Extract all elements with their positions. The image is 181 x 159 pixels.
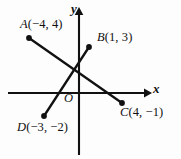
point-coords-a: (−4, 4)	[28, 17, 63, 31]
point-name-a: A	[20, 17, 28, 31]
point-marker-B	[86, 44, 92, 50]
point-coords-c: (4, −1)	[128, 105, 163, 119]
y-axis-label: y	[71, 2, 77, 15]
origin-label: O	[64, 92, 73, 105]
point-coords-b: (1, 3)	[105, 30, 133, 44]
point-label-d: D(−3, −2)	[17, 121, 68, 134]
coordinate-plane-figure: A(−4, 4) B(1, 3) C(4, −1) D(−3, −2) x y …	[0, 0, 181, 159]
segment-DB	[44, 47, 89, 116]
point-marker-D	[41, 113, 47, 119]
x-axis-label: x	[153, 82, 160, 95]
point-label-b: B(1, 3)	[97, 31, 132, 44]
point-label-a: A(−4, 4)	[20, 18, 63, 31]
x-axis-arrowhead	[144, 89, 152, 98]
point-label-c: C(4, −1)	[120, 106, 163, 119]
point-name-d: D	[17, 120, 26, 134]
point-coords-d: (−3, −2)	[26, 120, 68, 134]
point-marker-A	[26, 35, 32, 41]
point-name-b: B	[97, 30, 105, 44]
